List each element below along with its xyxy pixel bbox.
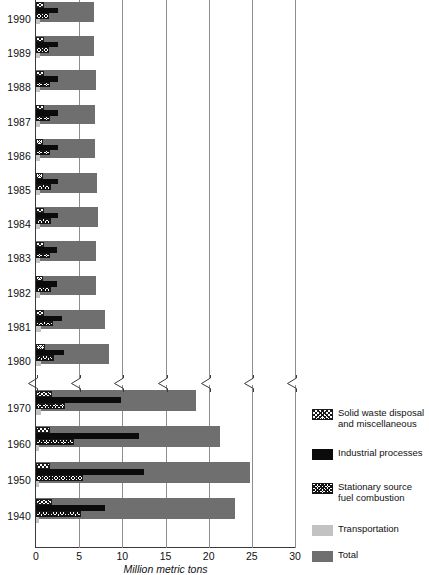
legend-label-1: Solid waste disposaland miscellaneous bbox=[338, 408, 429, 429]
legend-label-2: Industrial processes bbox=[338, 448, 429, 459]
x-tick-label-25: 25 bbox=[239, 550, 265, 562]
legend-label-3: Stationary sourcefuel combustion bbox=[338, 482, 429, 503]
bar-stationary-1950 bbox=[36, 475, 83, 481]
year-row-1980: 1980 bbox=[0, 344, 429, 378]
bar-transportation-1982 bbox=[36, 292, 40, 297]
dark-gray-swatch bbox=[312, 551, 333, 562]
bar-transportation-1986 bbox=[36, 155, 40, 160]
year-label-1983: 1983 bbox=[0, 252, 31, 264]
year-row-1988: 1988 bbox=[0, 70, 429, 104]
year-label-1940: 1940 bbox=[0, 510, 31, 522]
year-label-1984: 1984 bbox=[0, 218, 31, 230]
year-label-1990: 1990 bbox=[0, 13, 31, 25]
year-label-1985: 1985 bbox=[0, 184, 31, 196]
x-axis-title: Million metric tons bbox=[36, 563, 295, 575]
bar-transportation-1985 bbox=[36, 190, 40, 195]
bars-group-1982 bbox=[36, 276, 336, 310]
bar-transportation-1940 bbox=[36, 517, 39, 523]
year-label-1981: 1981 bbox=[0, 321, 31, 333]
bars-group-1985 bbox=[36, 173, 336, 207]
bar-transportation-1984 bbox=[36, 224, 40, 229]
x-tick-label-0: 0 bbox=[23, 550, 49, 562]
bars-group-1970 bbox=[36, 390, 336, 426]
year-label-1960: 1960 bbox=[0, 438, 31, 450]
bars-group-1940 bbox=[36, 498, 336, 534]
year-row-1981: 1981 bbox=[0, 310, 429, 344]
year-label-1988: 1988 bbox=[0, 81, 31, 93]
year-row-1985: 1985 bbox=[0, 173, 429, 207]
fine-crosshatch-swatch bbox=[312, 483, 333, 494]
diagonal-crosshatch-swatch bbox=[312, 409, 333, 420]
bar-stationary-1960 bbox=[36, 439, 74, 445]
bars-group-1981 bbox=[36, 310, 336, 344]
solid-black-swatch bbox=[312, 449, 333, 460]
bars-group-1980 bbox=[36, 344, 336, 378]
bar-transportation-1989 bbox=[36, 53, 40, 58]
axis-break-zigzag-3 bbox=[157, 375, 170, 392]
x-tick-label-10: 10 bbox=[109, 550, 135, 562]
year-label-1982: 1982 bbox=[0, 287, 31, 299]
x-tick-label-15: 15 bbox=[153, 550, 179, 562]
axis-break-zigzag-4 bbox=[200, 375, 213, 392]
year-row-1987: 1987 bbox=[0, 105, 429, 139]
bars-group-1987 bbox=[36, 105, 336, 139]
year-label-1950: 1950 bbox=[0, 474, 31, 486]
year-label-1986: 1986 bbox=[0, 150, 31, 162]
bars-group-1989 bbox=[36, 36, 336, 70]
bars-group-1988 bbox=[36, 70, 336, 104]
year-row-1990: 1990 bbox=[0, 2, 429, 36]
bars-group-1983 bbox=[36, 241, 336, 275]
bar-transportation-1987 bbox=[36, 121, 40, 126]
year-row-1984: 1984 bbox=[0, 207, 429, 241]
year-row-1982: 1982 bbox=[0, 276, 429, 310]
x-tick-label-30: 30 bbox=[282, 550, 308, 562]
bars-group-1960 bbox=[36, 426, 336, 462]
year-label-1980: 1980 bbox=[0, 355, 31, 367]
bar-transportation-1980 bbox=[36, 361, 41, 366]
bar-transportation-1983 bbox=[36, 258, 40, 263]
year-row-1983: 1983 bbox=[0, 241, 429, 275]
axis-break-zigzag-1 bbox=[70, 375, 83, 392]
year-label-1989: 1989 bbox=[0, 47, 31, 59]
legend-label-5: Total bbox=[338, 550, 429, 561]
bars-group-1950 bbox=[36, 462, 336, 498]
axis-break-zigzag-6 bbox=[286, 375, 299, 392]
bar-transportation-1970 bbox=[36, 409, 41, 415]
sulfur-dioxide-emissions-bar-chart: 1990198919881987198619851984198319821981… bbox=[0, 0, 429, 575]
bar-transportation-1990 bbox=[36, 19, 40, 24]
bar-transportation-1950 bbox=[36, 481, 39, 487]
year-row-1989: 1989 bbox=[0, 36, 429, 70]
axis-break-zigzag-2 bbox=[113, 375, 126, 392]
year-row-1986: 1986 bbox=[0, 139, 429, 173]
light-gray-swatch bbox=[312, 525, 333, 536]
legend-label-4: Transportation bbox=[338, 524, 429, 535]
axis-break-zigzag-5 bbox=[243, 375, 256, 392]
bars-group-1986 bbox=[36, 139, 336, 173]
bar-stationary-1940 bbox=[36, 511, 81, 517]
year-label-1970: 1970 bbox=[0, 402, 31, 414]
x-tick-label-20: 20 bbox=[196, 550, 222, 562]
year-label-1987: 1987 bbox=[0, 116, 31, 128]
axis-break-zigzag-0 bbox=[27, 375, 40, 392]
bar-transportation-1988 bbox=[36, 87, 40, 92]
bar-transportation-1981 bbox=[36, 326, 41, 331]
bar-transportation-1960 bbox=[36, 445, 39, 451]
bars-group-1984 bbox=[36, 207, 336, 241]
bars-group-1990 bbox=[36, 2, 336, 36]
x-tick-label-5: 5 bbox=[66, 550, 92, 562]
